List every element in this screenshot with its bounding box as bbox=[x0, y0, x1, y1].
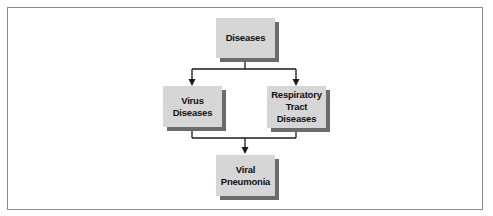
node-viral-pneumonia-label: Viral Pneumonia bbox=[221, 164, 270, 188]
node-respiratory-tract-diseases-label: Respiratory Tract Diseases bbox=[271, 89, 322, 125]
node-viral-pneumonia: Viral Pneumonia bbox=[216, 155, 275, 196]
node-virus-diseases-label: Virus Diseases bbox=[173, 95, 213, 119]
node-diseases-label: Diseases bbox=[226, 32, 266, 44]
node-virus-diseases: Virus Diseases bbox=[163, 86, 222, 127]
node-diseases: Diseases bbox=[216, 18, 275, 58]
node-respiratory-tract-diseases: Respiratory Tract Diseases bbox=[267, 86, 326, 128]
